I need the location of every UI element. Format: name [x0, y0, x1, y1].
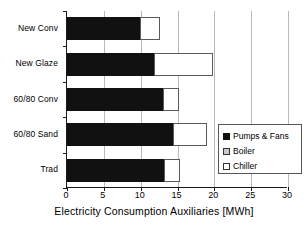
- x-axis-tick-label: 5: [100, 190, 105, 201]
- legend-item: Pumps & Fans: [223, 129, 301, 143]
- y-axis-tick: [63, 188, 67, 189]
- chiller-swatch: [223, 163, 230, 170]
- x-axis-title: Electricity Consumption Auxiliaries [MWh…: [0, 205, 308, 217]
- bar-segment-pumps-fans: [67, 17, 141, 40]
- y-axis-category-label: 60/80 Conv: [14, 95, 58, 104]
- bar-group: [67, 88, 179, 111]
- bar-segment-pumps-fans: [67, 159, 165, 182]
- bar-segment-chiller: [164, 159, 180, 182]
- bar-segment-pumps-fans: [67, 123, 174, 146]
- legend: Pumps & FansBoilerChiller: [218, 124, 302, 174]
- y-axis-category-label: 60/80 Sand: [14, 130, 58, 139]
- x-axis-tick-label: 0: [63, 190, 68, 201]
- y-axis-tick: [63, 153, 67, 154]
- bar-group: [67, 159, 180, 182]
- y-axis-tick: [63, 82, 67, 83]
- x-axis-tick-label: 25: [245, 190, 255, 201]
- legend-label: Chiller: [233, 162, 257, 171]
- y-axis-tick: [63, 11, 67, 12]
- bar-group: [67, 53, 213, 76]
- bar-segment-chiller: [154, 53, 213, 76]
- x-axis-tick-label: 20: [208, 190, 218, 201]
- boiler-swatch: [223, 148, 230, 155]
- bar-segment-chiller: [140, 17, 161, 40]
- bar-segment-chiller: [163, 88, 178, 111]
- bar-segment-pumps-fans: [67, 53, 155, 76]
- bar-group: [67, 123, 207, 146]
- gridline: [214, 11, 215, 187]
- legend-item: Boiler: [223, 144, 301, 158]
- legend-label: Boiler: [233, 147, 255, 156]
- y-axis-tick: [63, 117, 67, 118]
- x-axis-tick-labels: 051015202530: [66, 190, 287, 204]
- y-axis-labels: New ConvNew Glaze60/80 Conv60/80 SandTra…: [0, 11, 62, 188]
- x-axis-tick-label: 15: [171, 190, 181, 201]
- pumps-fans-swatch: [223, 133, 230, 140]
- x-axis-tick-label: 30: [282, 190, 292, 201]
- legend-item: Chiller: [223, 159, 301, 173]
- y-axis-category-label: Trad: [40, 165, 58, 174]
- bar-group: [67, 17, 160, 40]
- x-axis-tick-label: 10: [135, 190, 145, 201]
- bar-segment-chiller: [173, 123, 208, 146]
- bar-chart: New ConvNew Glaze60/80 Conv60/80 SandTra…: [0, 0, 308, 228]
- y-axis-category-label: New Conv: [18, 24, 58, 33]
- y-axis-tick: [63, 46, 67, 47]
- bar-segment-pumps-fans: [67, 88, 164, 111]
- legend-label: Pumps & Fans: [233, 132, 289, 141]
- y-axis-category-label: New Glaze: [16, 59, 58, 68]
